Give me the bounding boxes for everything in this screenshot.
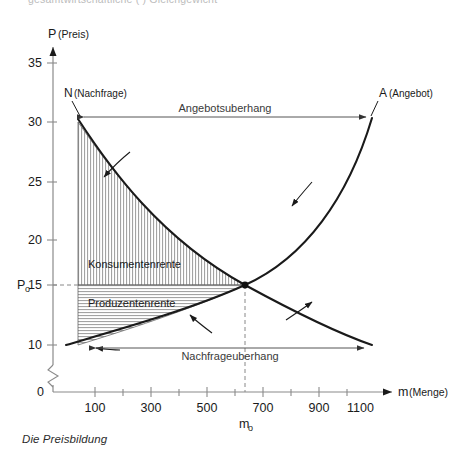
supply-arrow-lower — [190, 315, 212, 333]
x-axis-label: m — [398, 385, 408, 399]
x-axis-title: m (Menge) — [398, 385, 448, 399]
y-axis — [48, 47, 58, 392]
diagram-canvas: 35 30 25 20 15 10 0 P o P (Preis) — [0, 0, 463, 458]
y-tick-label-35: 35 — [28, 56, 42, 70]
x-axis — [53, 389, 392, 396]
x-tick-label-300: 300 — [141, 401, 162, 415]
consumer-surplus-label: Konsumentenrente — [88, 258, 181, 270]
demand-curve-label: N (Nachfrage) — [64, 86, 127, 116]
y-tick-label-20: 20 — [28, 233, 42, 247]
equilibrium-quantity-label: m o — [239, 417, 253, 433]
producer-surplus-region — [78, 285, 245, 345]
x-tick-label-500: 500 — [197, 401, 218, 415]
axis-break-icon — [48, 365, 58, 387]
x-tick-label-900: 900 — [309, 401, 330, 415]
excess-demand-annotation: Nachfrageuberhang — [96, 348, 364, 362]
y-axis-title: P (Preis) — [48, 27, 89, 41]
supply-label-symbol: A — [379, 86, 387, 100]
y-origin-label: 0 — [37, 385, 44, 399]
y-tick-label-15: 15 — [28, 278, 42, 292]
x-tick-label-100: 100 — [85, 401, 106, 415]
y-tick-label-30: 30 — [28, 115, 42, 129]
supply-arrow-upper — [292, 182, 312, 206]
equilibrium-point — [242, 282, 249, 289]
equilibrium-quantity-subscript: o — [248, 423, 253, 433]
supply-label-sublabel: (Angebot) — [389, 88, 433, 99]
demand-label-sublabel: (Nachfrage) — [74, 88, 127, 99]
excess-supply-annotation: Angebotsuberhang — [84, 102, 366, 117]
supply-curve-label: A (Angebot) — [371, 86, 433, 116]
producer-surplus-label: Produzentenrente — [88, 297, 175, 309]
figure-caption: Die Preisbildung — [22, 433, 107, 445]
y-tick-label-25: 25 — [28, 175, 42, 189]
y-axis-sublabel: (Preis) — [58, 28, 89, 40]
y-tick-label-10: 10 — [28, 338, 42, 352]
demand-label-symbol: N — [64, 86, 73, 100]
excess-demand-label: Nachfrageuberhang — [181, 350, 278, 362]
price-formation-figure: gesamtwirtschaftliche ( ) Gleichgewicht — [0, 0, 463, 458]
x-axis-sublabel: (Menge) — [409, 386, 448, 398]
equilibrium-price-subscript: o — [25, 284, 30, 294]
excess-supply-label: Angebotsuberhang — [179, 102, 272, 114]
x-tick-label-700: 700 — [253, 401, 274, 415]
x-tick-label-1100: 1100 — [347, 401, 374, 415]
y-axis-label: P — [48, 27, 56, 41]
y-axis-ticks — [47, 63, 57, 345]
